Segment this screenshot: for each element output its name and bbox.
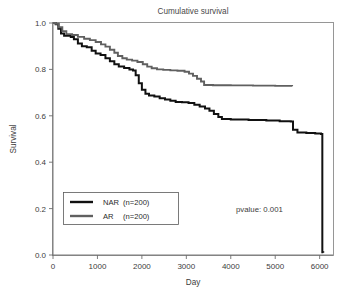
y-tick-label: 0.2 xyxy=(35,205,47,214)
y-tick-label: 1.0 xyxy=(35,19,47,28)
x-tick-label: 5000 xyxy=(266,262,284,271)
x-tick-label: 4000 xyxy=(222,262,240,271)
x-tick-label: 1000 xyxy=(89,262,107,271)
x-tick-label: 0 xyxy=(51,262,56,271)
x-axis-title: Day xyxy=(186,278,201,287)
y-tick-label: 0.0 xyxy=(35,251,47,260)
cumulative-survival-chart: Cumulative survival 0.00.20.40.60.81.0 0… xyxy=(0,0,351,299)
series-line-ar xyxy=(53,23,292,86)
y-tick-label: 0.8 xyxy=(35,65,47,74)
x-tick-label: 6000 xyxy=(311,262,329,271)
legend-label-nar: NAR xyxy=(103,198,120,207)
chart-title: Cumulative survival xyxy=(158,7,229,16)
x-tick-label: 3000 xyxy=(177,262,195,271)
legend-count-nar: (n=200) xyxy=(123,198,150,207)
chart-legend: NAR (n=200) AR (n=200) xyxy=(64,193,179,225)
x-axis: 0100020003000400050006000 xyxy=(51,255,333,271)
legend-label-ar: AR xyxy=(103,212,114,221)
x-tick-label: 2000 xyxy=(133,262,151,271)
pvalue-annotation: pvalue: 0.001 xyxy=(236,205,283,214)
y-axis-title: Survival xyxy=(9,124,18,153)
chart-canvas: Cumulative survival 0.00.20.40.60.81.0 0… xyxy=(0,0,351,299)
y-tick-label: 0.4 xyxy=(35,158,47,167)
legend-count-ar: (n=200) xyxy=(123,212,150,221)
y-tick-label: 0.6 xyxy=(35,112,47,121)
legend-box xyxy=(64,193,179,225)
y-axis: 0.00.20.40.60.81.0 xyxy=(35,19,53,260)
